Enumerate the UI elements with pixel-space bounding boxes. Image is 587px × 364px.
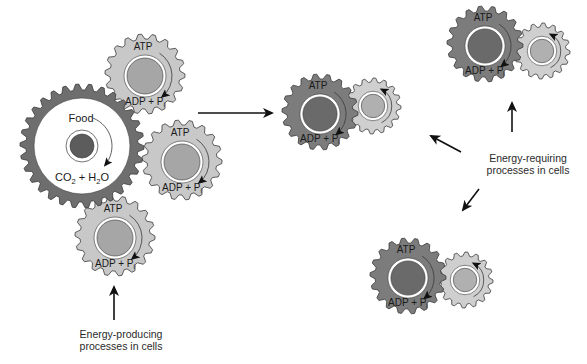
atp-gear-requiring: ATPADP + Pi [447, 6, 523, 82]
atp-label: ATP [134, 41, 153, 52]
gear-core [453, 268, 477, 292]
atp-label: ATP [474, 12, 493, 23]
gear-core [164, 144, 200, 180]
adp-label: ADP + Pi [125, 96, 165, 108]
atp-gear-requiring: ATPADP + Pi [282, 74, 358, 150]
caption-line-2: processes in cells [61, 340, 181, 352]
gear-pair-3: ATPADP + Pi [370, 238, 493, 314]
gear-pair-2: ATPADP + Pi [447, 6, 570, 82]
atp-label: ATP [309, 80, 328, 91]
adp-label: ADP + Pi [388, 297, 428, 309]
energy-producing-caption: Energy-producing processes in cells [61, 328, 181, 352]
work-gear [514, 23, 570, 79]
adp-label: ADP + Pi [465, 65, 505, 77]
adp-label: ADP + Pi [95, 258, 135, 270]
gear-core [468, 29, 502, 63]
flow-arrow-icon [463, 189, 479, 210]
gear-core [97, 220, 133, 256]
gear-core [391, 261, 425, 295]
caption-line-1: Energy-producing [61, 328, 181, 340]
atp-gear-diagram: ATPADP + PiATPADP + PiATPADP + Pi FoodCO… [0, 0, 587, 364]
atp-label: ATP [171, 127, 190, 138]
adp-label: ADP + Pi [300, 133, 340, 145]
adp-label: ADP + Pi [162, 182, 202, 194]
caption-line-2: processes in cells [468, 164, 587, 176]
caption-line-1: Energy-requiring [468, 152, 587, 164]
atp-label: ATP [104, 203, 123, 214]
energy-requiring-caption: Energy-requiring processes in cells [468, 152, 587, 176]
work-gear [437, 252, 493, 308]
food-core [70, 134, 94, 158]
food-gear: FoodCO2 + H2O [20, 84, 144, 208]
gear-core [361, 94, 385, 118]
atp-gear-producing-2: ATPADP + Pi [142, 120, 222, 200]
gear-core [127, 58, 163, 94]
gear-core [303, 97, 337, 131]
gear-core [530, 39, 554, 63]
flow-arrow-icon [431, 136, 461, 152]
atp-gear-requiring: ATPADP + Pi [370, 238, 446, 314]
food-label: Food [68, 112, 93, 124]
atp-label: ATP [397, 244, 416, 255]
gear-pair-1: ATPADP + Pi [282, 74, 401, 150]
